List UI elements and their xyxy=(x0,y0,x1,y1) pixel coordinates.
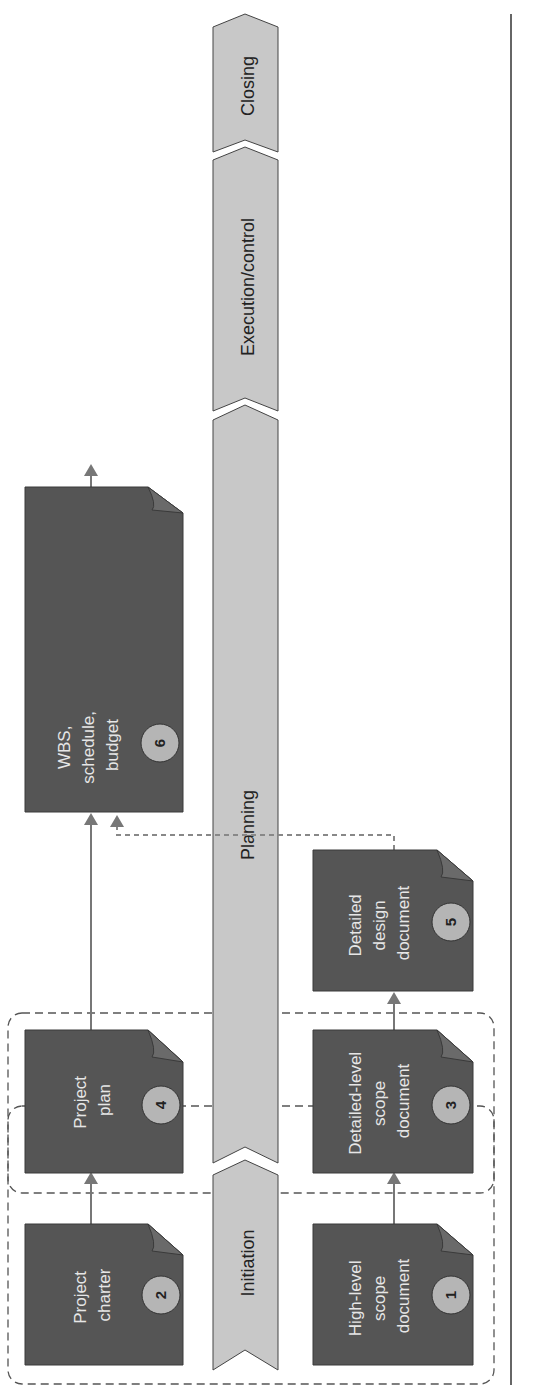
page-fold-icon xyxy=(148,1224,183,1255)
project-documents-diagram: Initiation Planning Execution/control Cl… xyxy=(0,0,544,1397)
svg-text:1: 1 xyxy=(442,1291,459,1299)
phase-band: Initiation Planning Execution/control Cl… xyxy=(213,14,278,1370)
page-fold-icon xyxy=(437,1030,473,1062)
svg-text:2: 2 xyxy=(152,1291,169,1299)
document-4-project-plan: Project plan 4 xyxy=(25,1030,183,1173)
phase-label-planning: Planning xyxy=(238,790,258,860)
document-5-detailed-design: Detailed design document 5 xyxy=(313,850,473,991)
phase-label-execution: Execution/control xyxy=(238,218,258,356)
arrowhead-icon xyxy=(84,813,98,825)
page-fold-icon xyxy=(148,1030,183,1062)
phase-label-closing: Closing xyxy=(238,56,258,116)
document-label: Detailed design document xyxy=(346,885,413,960)
svg-text:6: 6 xyxy=(151,739,168,747)
arrowhead-icon xyxy=(84,464,98,476)
page-fold-icon xyxy=(437,850,473,881)
svg-text:5: 5 xyxy=(442,918,459,926)
arrowhead-icon xyxy=(387,1172,401,1184)
document-2-project-charter: Project charter 2 xyxy=(25,1224,183,1365)
page-fold-icon xyxy=(148,487,183,513)
page-fold-icon xyxy=(437,1224,473,1255)
arrowhead-icon xyxy=(84,1172,98,1184)
arrowhead-icon xyxy=(387,992,401,1004)
document-6-wbs-schedule-budget: WBS, schedule, budget 6 xyxy=(25,487,183,812)
document-3-detailed-level-scope: Detailed-level scope document 3 xyxy=(313,1030,473,1173)
document-1-high-level-scope: High-level scope document 1 xyxy=(313,1224,473,1365)
arrowhead-icon xyxy=(110,815,124,827)
phase-label-initiation: Initiation xyxy=(238,1229,258,1296)
phase-planning xyxy=(213,405,278,1163)
svg-text:4: 4 xyxy=(152,1100,169,1109)
svg-text:3: 3 xyxy=(442,1101,459,1109)
